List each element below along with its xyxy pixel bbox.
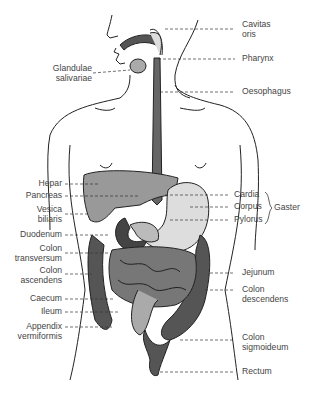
label-duodenum: Duodenum bbox=[20, 230, 62, 240]
digestive-system-diagram: Glandulaesalivariae Hepar Pancreas Vesic… bbox=[0, 0, 310, 396]
label-pancreas: Pancreas bbox=[26, 191, 62, 201]
label-glandulae-salivariae: Glandulaesalivariae bbox=[53, 64, 92, 83]
label-cavitas-oris: Cavitasoris bbox=[242, 20, 271, 39]
label-rectum: Rectum bbox=[242, 367, 272, 377]
label-colon-transversum: Colontransversum bbox=[15, 244, 62, 263]
label-oesophagus: Oesophagus bbox=[242, 87, 291, 97]
label-ileum: Ileum bbox=[41, 307, 62, 317]
label-pharynx: Pharynx bbox=[242, 54, 274, 64]
label-caecum: Caecum bbox=[30, 294, 62, 304]
label-hepar: Hepar bbox=[39, 179, 62, 189]
label-appendix-vermiformis: Appendixvermiformis bbox=[18, 322, 62, 341]
label-cardia: Cardia bbox=[234, 190, 259, 200]
label-colon-ascendens: Colonascendens bbox=[20, 266, 62, 285]
label-pylorus: Pylorus bbox=[234, 215, 263, 225]
label-corpus: Corpus bbox=[234, 202, 262, 212]
label-colon-sigmoideum: Colonsigmoideum bbox=[242, 333, 288, 352]
label-vesica-biliaris: Vesicabiliaris bbox=[37, 205, 62, 224]
label-colon-descendens: Colondescendens bbox=[242, 285, 288, 304]
label-jejunum: Jejunum bbox=[242, 268, 274, 278]
label-gaster: Gaster bbox=[274, 203, 300, 213]
